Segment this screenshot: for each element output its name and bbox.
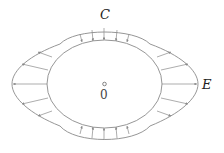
origin-marker-icon [103, 82, 107, 86]
left-arrows [13, 52, 52, 116]
label-origin: 0 [100, 89, 108, 101]
label-e: E [202, 78, 212, 91]
label-c: C [100, 8, 110, 21]
stress-distribution-diagram [0, 0, 224, 153]
inner-circle [47, 40, 162, 128]
right-arrows [157, 52, 197, 116]
